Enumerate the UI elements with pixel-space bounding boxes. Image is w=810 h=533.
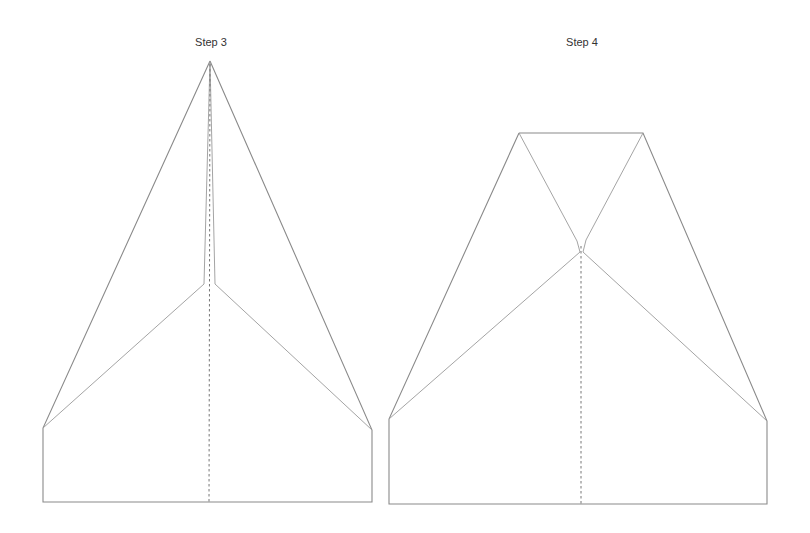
step-4-outline <box>389 133 767 504</box>
step-4-drawing <box>389 133 767 504</box>
step-3-drawing <box>43 61 372 502</box>
folding-diagram <box>0 0 810 533</box>
step-4-left-diagonal-fold <box>389 133 580 419</box>
step-3-center-crease <box>209 64 210 502</box>
step-3-outline <box>43 61 372 502</box>
step-4-right-diagonal-fold <box>583 133 767 421</box>
